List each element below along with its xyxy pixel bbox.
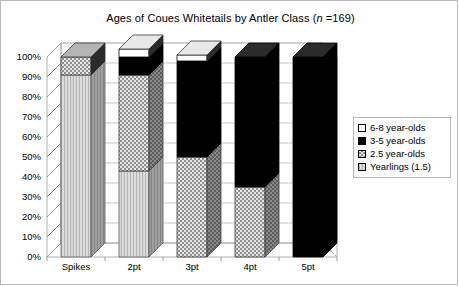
y-tick-label: 70%	[0, 112, 41, 122]
legend-item-3-5: 3-5 year-olds	[358, 134, 446, 147]
legend-label: 2.5 year-olds	[370, 148, 425, 159]
bar-group-5pt	[293, 43, 337, 257]
y-tick-label: 80%	[0, 92, 41, 102]
y-tick-label: 50%	[0, 152, 41, 162]
bar-group-3pt	[177, 41, 221, 257]
y-tick-label: 100%	[0, 52, 41, 62]
legend-label: 6-8 year-olds	[370, 122, 425, 133]
legend-item-yearlings: Yearlings (1.5)	[358, 160, 446, 173]
x-tick-label-2pt: 2pt	[105, 262, 163, 272]
y-tick-label: 30%	[0, 192, 41, 202]
legend-swatch-yearlings-icon	[358, 163, 366, 171]
legend-swatch-3-5-icon	[358, 137, 366, 145]
chart-legend: 6-8 year-olds 3-5 year-olds 2.5 year-old…	[353, 117, 451, 178]
bar-group-4pt	[235, 43, 279, 257]
y-tick-label: 90%	[0, 72, 41, 82]
legend-item-2-5: 2.5 year-olds	[358, 147, 446, 160]
legend-label: Yearlings (1.5)	[370, 161, 431, 172]
chart-frame: Ages of Coues Whitetails by Antler Class…	[0, 0, 458, 285]
legend-item-6-8: 6-8 year-olds	[358, 121, 446, 134]
x-tick-label-4pt: 4pt	[221, 262, 279, 272]
bar-group-spikes	[61, 43, 105, 257]
legend-label: 3-5 year-olds	[370, 135, 425, 146]
y-tick-label: 20%	[0, 212, 41, 222]
y-tick-label: 0%	[0, 252, 41, 262]
legend-swatch-2-5-icon	[358, 150, 366, 158]
bar-group-2pt	[119, 35, 163, 257]
legend-swatch-6-8-icon	[358, 124, 366, 132]
x-tick-label-spikes: Spikes	[47, 262, 105, 272]
y-tick-label: 10%	[0, 232, 41, 242]
x-tick-label-3pt: 3pt	[163, 262, 221, 272]
x-tick-label-5pt: 5pt	[279, 262, 337, 272]
y-tick-label: 60%	[0, 132, 41, 142]
y-tick-label: 40%	[0, 172, 41, 182]
